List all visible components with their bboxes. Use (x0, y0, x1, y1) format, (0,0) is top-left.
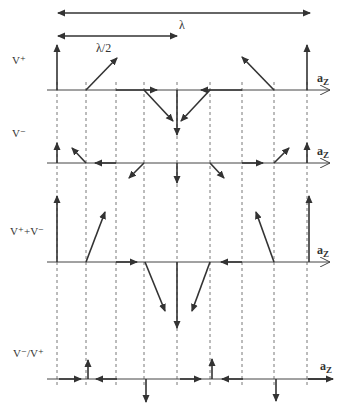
half-wavelength-label: λ/2 (96, 41, 111, 56)
panel-v-plus (47, 45, 330, 135)
panel-label-v-plus: V⁺ (12, 54, 26, 67)
dashed-guide-lines (57, 82, 307, 388)
panel-label-v-minus: V⁻ (12, 127, 26, 140)
axis-label-az-2: aZ (317, 144, 329, 160)
axis-label-az-4: aZ (320, 359, 332, 375)
panel-v-sum (47, 196, 330, 328)
wavelength-label: λ (179, 18, 185, 33)
axis-label-az-3: aZ (317, 243, 329, 259)
axis-label-az-1: aZ (317, 71, 329, 87)
panel-label-reflection-ratio: V⁻/V⁺ (13, 347, 44, 360)
standing-wave-diagram (0, 0, 348, 412)
panel-v-minus (47, 143, 330, 183)
panel-reflection-ratio (47, 359, 333, 402)
panel-label-v-sum: V⁺+V⁻ (10, 225, 44, 238)
